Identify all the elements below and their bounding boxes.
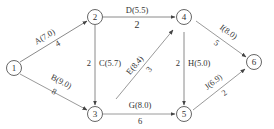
- edge-H: H(5.0) 2: [176, 32, 211, 105]
- node-label: 6: [252, 57, 257, 67]
- edge-activity-label: D(5.5): [126, 5, 149, 15]
- node-label: 2: [93, 12, 98, 22]
- edge-D: D(5.5) 2: [103, 5, 175, 30]
- edge-activity-label: G(8.0): [129, 100, 152, 110]
- node-5: 5: [177, 107, 192, 122]
- edge-duration-label: 2: [176, 58, 180, 68]
- node-2: 2: [88, 10, 103, 25]
- edge-duration-label: 2: [219, 87, 229, 97]
- edge-duration-label: 2: [87, 58, 91, 68]
- edge-duration-label: 6: [138, 116, 142, 126]
- edge-duration-label: 2: [135, 19, 140, 30]
- edge-activity-label: E(8.4): [124, 54, 146, 77]
- node-label: 5: [182, 109, 187, 119]
- edge-activity-label: H(5.0): [188, 58, 211, 68]
- node-6: 6: [247, 55, 262, 70]
- node-label: 3: [93, 109, 98, 119]
- edge-A: A(7.0) 4: [20, 21, 87, 62]
- node-label: 1: [12, 63, 17, 73]
- edge-I: I(8.0) 5: [196, 21, 246, 57]
- edge-B: B(9.0) 8: [20, 72, 87, 110]
- edge-duration-label: 3: [144, 64, 154, 74]
- edge-activity-label: C(5.7): [99, 58, 121, 68]
- node-4: 4: [177, 10, 192, 25]
- network-diagram-svg: A(7.0) 4 B(9.0) 8 C(5.7) 2 D(5.5) 2 E(8.…: [0, 0, 274, 129]
- node-1: 1: [7, 61, 22, 76]
- edge-duration-label: 8: [50, 86, 58, 97]
- edge-activity-label: I(8.0): [218, 22, 239, 41]
- node-label: 4: [182, 12, 187, 22]
- arrow-icon: [116, 30, 173, 99]
- edge-duration-label: 5: [212, 37, 221, 48]
- edge-E: E(8.4) 3: [116, 30, 173, 99]
- node-3: 3: [88, 107, 103, 122]
- network-diagram: A(7.0) 4 B(9.0) 8 C(5.7) 2 D(5.5) 2 E(8.…: [0, 0, 274, 129]
- edge-activity-label: A(7.0): [32, 26, 57, 46]
- edge-G: G(8.0) 6: [103, 100, 175, 126]
- edge-J: J(6.9) 2: [193, 69, 245, 110]
- edge-C: C(5.7) 2: [87, 25, 121, 105]
